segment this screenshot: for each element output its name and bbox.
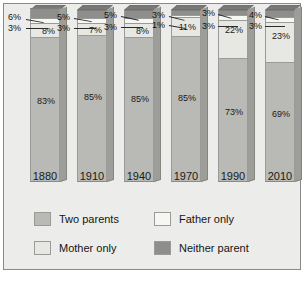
callout-neither-parent-2010: 4% xyxy=(249,10,262,20)
value-label-two-parents-1970: 85% xyxy=(178,93,196,103)
chart-figure: 8% 83% 1880 6% 3% 7% 85% xyxy=(3,3,301,270)
segment-two-parents-2010: 69% xyxy=(265,62,295,183)
chart-legend: Two parents Father only Mother only Neit… xyxy=(34,212,274,264)
leader-line-father-only-1880 xyxy=(26,28,48,29)
callout-father-only-2010: 3% xyxy=(249,21,262,31)
segment-neither-parent-1910 xyxy=(77,10,107,19)
legend-item-mother-only: Mother only xyxy=(34,241,116,255)
bar-side-face-1990 xyxy=(248,7,255,182)
legend-label-mother-only: Mother only xyxy=(59,242,116,254)
bar-side-face-1940 xyxy=(154,7,161,182)
x-tick-label-1940: 1940 xyxy=(121,170,157,182)
x-tick-label-1990: 1990 xyxy=(215,170,251,182)
legend-item-two-parents: Two parents xyxy=(34,212,119,226)
legend-label-father-only: Father only xyxy=(179,213,234,225)
plot-area: 8% 83% 1880 6% 3% 7% 85% xyxy=(4,4,302,200)
bar-stack-1990: 22% 73% xyxy=(218,10,248,182)
segment-mother-only-2010: 23% xyxy=(265,22,295,62)
legend-swatch-two-parents xyxy=(34,212,51,226)
segment-two-parents-1970: 85% xyxy=(171,36,201,182)
bar-stack-1910: 7% 85% xyxy=(77,10,107,182)
legend-label-two-parents: Two parents xyxy=(59,213,119,225)
callout-father-only-1910: 3% xyxy=(57,23,70,33)
callout-father-only-1990: 3% xyxy=(202,21,215,31)
legend-item-neither-parent: Neither parent xyxy=(154,241,249,255)
bar-stack-1940: 8% 85% xyxy=(124,10,154,182)
x-tick-label-1970: 1970 xyxy=(168,170,204,182)
segment-mother-only-1910: 7% xyxy=(77,23,107,35)
bar-side-face-1970 xyxy=(201,7,208,182)
value-label-two-parents-1910: 85% xyxy=(84,92,102,102)
value-label-two-parents-1940: 85% xyxy=(131,94,149,104)
callout-father-only-1970: 1% xyxy=(152,20,165,30)
segment-mother-only-1940: 8% xyxy=(124,23,154,37)
leader-line-father-only-1910 xyxy=(74,28,96,29)
bar-side-face-1880 xyxy=(60,7,67,182)
segment-neither-parent-1880 xyxy=(30,8,60,18)
callout-neither-parent-1940: 5% xyxy=(104,10,117,20)
bar-side-face-1910 xyxy=(107,7,114,182)
legend-item-father-only: Father only xyxy=(154,212,234,226)
value-label-two-parents-1990: 73% xyxy=(225,107,243,117)
leader-line-father-only-1940 xyxy=(121,27,143,28)
bar-side-face-2010 xyxy=(295,7,302,182)
legend-label-neither-parent: Neither parent xyxy=(179,242,249,254)
x-tick-label-1880: 1880 xyxy=(27,170,63,182)
legend-swatch-neither-parent xyxy=(154,241,171,255)
callout-neither-parent-1970: 3% xyxy=(152,10,165,20)
callout-father-only-1880: 3% xyxy=(8,23,21,33)
legend-swatch-mother-only xyxy=(34,241,51,255)
segment-two-parents-1880: 83% xyxy=(30,37,60,182)
x-tick-label-1910: 1910 xyxy=(74,170,110,182)
value-label-two-parents-1880: 83% xyxy=(37,96,55,106)
segment-neither-parent-2010 xyxy=(265,10,295,17)
bar-stack-1880: 8% 83% xyxy=(30,10,60,182)
leader-line-father-only-2010 xyxy=(265,26,285,27)
segment-mother-only-1880: 8% xyxy=(30,23,60,37)
value-label-mother-only-1910: 7% xyxy=(89,25,102,35)
callout-neither-parent-1910: 5% xyxy=(57,12,70,22)
leader-line-father-only-1990 xyxy=(218,26,238,27)
x-tick-label-2010: 2010 xyxy=(262,170,298,182)
segment-two-parents-1940: 85% xyxy=(124,37,154,182)
bar-stack-1970: 11% 85% xyxy=(171,10,201,182)
legend-swatch-father-only xyxy=(154,212,171,226)
value-label-mother-only-2010: 23% xyxy=(272,31,290,41)
segment-two-parents-1990: 73% xyxy=(218,58,248,182)
callout-neither-parent-1990: 3% xyxy=(202,8,215,18)
value-label-two-parents-2010: 69% xyxy=(272,109,290,119)
bar-stack-2010: 23% 69% xyxy=(265,10,295,182)
callout-neither-parent-1880: 6% xyxy=(8,12,21,22)
callout-father-only-1940: 3% xyxy=(104,22,117,32)
segment-two-parents-1910: 85% xyxy=(77,35,107,182)
